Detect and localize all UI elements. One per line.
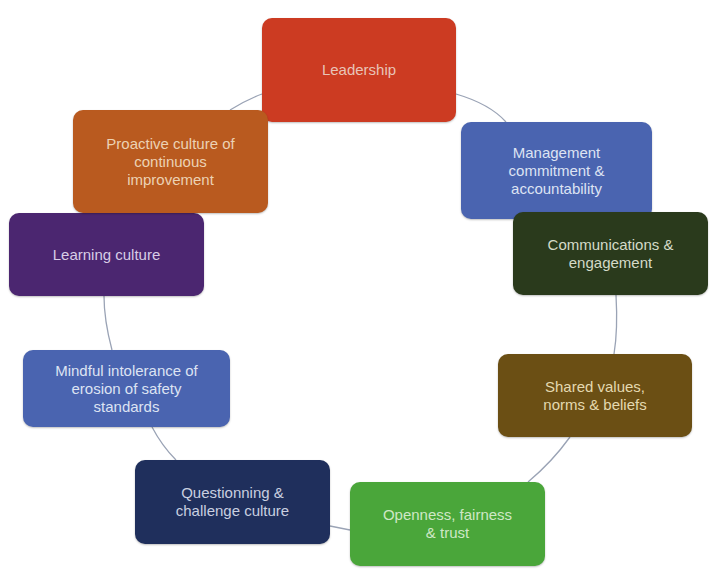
node-shared-values: Shared values, norms & beliefs [498,354,692,437]
connector-openness-questionning [330,526,350,530]
connector-shared-openness [528,437,570,482]
node-questionning: Questionning & challenge culture [135,460,330,544]
node-label: Management commitment & accountability [509,144,605,198]
node-label: Questionning & challenge culture [176,484,289,520]
node-label: Communications & engagement [548,236,674,272]
node-mindful-intolerance: Mindful intolerance of erosion of safety… [23,350,230,427]
node-label: Leadership [322,61,396,79]
node-communications: Communications & engagement [513,212,708,295]
node-label: Openness, fairness & trust [383,506,512,542]
node-proactive-culture: Proactive culture of continuous improvem… [73,110,268,213]
node-label: Learning culture [53,246,161,264]
connector-proactive-leadership [230,94,262,110]
node-label: Proactive culture of continuous improvem… [106,135,234,189]
node-openness: Openness, fairness & trust [350,482,545,566]
node-learning-culture: Learning culture [9,213,204,296]
node-management-commitment: Management commitment & accountability [461,122,652,219]
connector-communications-shared [614,295,617,354]
connector-leadership-management [456,94,506,122]
node-label: Mindful intolerance of erosion of safety… [55,362,198,416]
connector-mindful-learning [104,296,112,350]
node-leadership: Leadership [262,18,456,122]
node-label: Shared values, norms & beliefs [543,378,646,414]
connector-questionning-mindful [152,427,176,460]
